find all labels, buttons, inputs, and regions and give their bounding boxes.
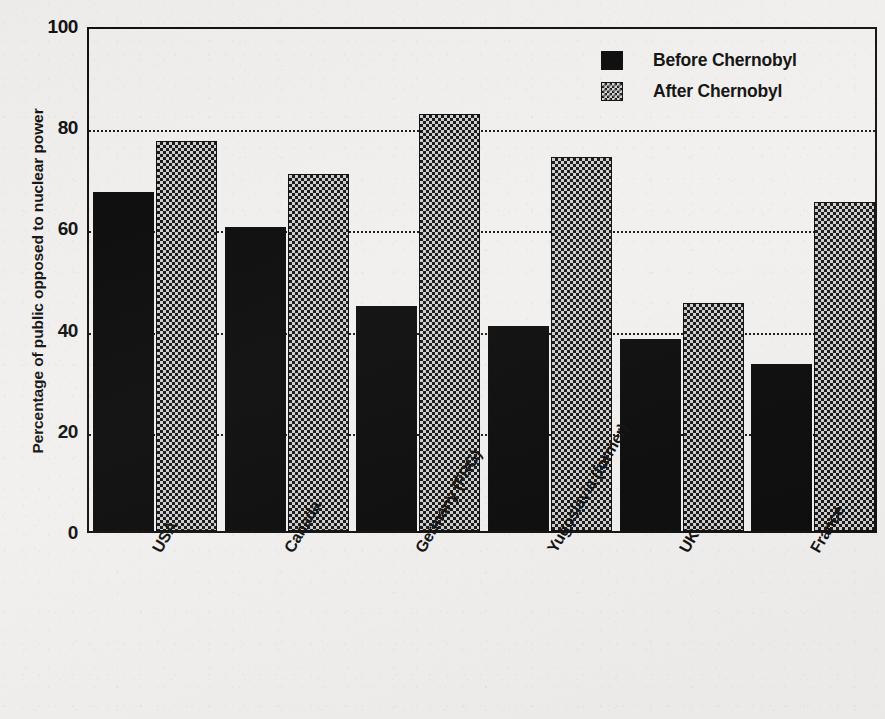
bar-germany-frg-before <box>356 306 417 531</box>
legend-item-before: Before Chernobyl <box>601 45 851 75</box>
bar-chart: Percentage of public opposed to nuclear … <box>0 0 885 719</box>
legend-swatch-before-icon <box>601 51 623 70</box>
bar-yugoslavia-former-before <box>488 326 549 531</box>
legend-label-after: After Chernobyl <box>653 81 782 102</box>
bar-uk-after <box>683 303 744 531</box>
y-tick-label-20: 20 <box>20 421 78 443</box>
bar-usa-after <box>156 141 217 531</box>
bar-france-before <box>751 364 812 531</box>
legend-label-before: Before Chernobyl <box>653 50 797 71</box>
x-axis-category-labels: USACanadaGermany (FRG)Yugoslavia (former… <box>87 533 877 719</box>
bar-usa-before <box>93 192 154 531</box>
bar-france-after <box>814 202 875 531</box>
y-axis-tick-labels: 100806040200 <box>20 0 78 719</box>
y-tick-label-100: 100 <box>20 16 78 38</box>
legend-item-after: After Chernobyl <box>601 76 851 106</box>
bar-canada-before <box>225 227 286 531</box>
y-tick-label-40: 40 <box>20 320 78 342</box>
y-tick-label-0: 0 <box>20 522 78 544</box>
y-tick-label-60: 60 <box>20 218 78 240</box>
legend-swatch-after-icon <box>601 82 623 101</box>
legend: Before Chernobyl After Chernobyl <box>601 45 851 107</box>
bar-canada-after <box>288 174 349 531</box>
y-tick-label-80: 80 <box>20 117 78 139</box>
